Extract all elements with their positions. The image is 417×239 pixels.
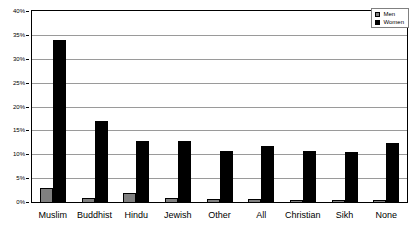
x-tick-label: Jewish bbox=[157, 204, 199, 226]
x-tick-label: Christian bbox=[282, 204, 324, 226]
chart-legend: MenWomen bbox=[371, 8, 409, 28]
bar-group bbox=[74, 11, 116, 202]
y-tick-label: 0% bbox=[16, 199, 25, 205]
y-tick-label: 40% bbox=[13, 8, 25, 14]
bar-men-none bbox=[373, 200, 386, 202]
bar-men-muslim bbox=[40, 188, 53, 202]
x-axis: MuslimBuddhistHinduJewishOtherAllChristi… bbox=[32, 204, 407, 226]
bar-group bbox=[199, 11, 241, 202]
y-tick-mark bbox=[26, 202, 29, 203]
bar-men-jewish bbox=[165, 198, 178, 202]
x-tick-label: Other bbox=[199, 204, 241, 226]
bar-men-other bbox=[207, 199, 220, 202]
bar-women-other bbox=[220, 151, 233, 202]
bar-women-hindu bbox=[136, 141, 149, 202]
legend-swatch-women bbox=[375, 20, 380, 25]
legend-item: Women bbox=[375, 19, 404, 25]
bar-chart: 0%5%10%15%20%25%30%35%40% MuslimBuddhist… bbox=[0, 0, 417, 239]
bar-men-sikh bbox=[332, 200, 345, 202]
bar-men-buddhist bbox=[82, 198, 95, 202]
y-tick-mark bbox=[26, 178, 29, 179]
y-tick-label: 35% bbox=[13, 32, 25, 38]
y-tick-label: 25% bbox=[13, 80, 25, 86]
x-tick-label: Sikh bbox=[324, 204, 366, 226]
y-tick-label: 20% bbox=[13, 104, 25, 110]
x-tick-label: All bbox=[240, 204, 282, 226]
bar-women-sikh bbox=[345, 152, 358, 202]
bar-women-none bbox=[386, 143, 399, 202]
bar-group bbox=[115, 11, 157, 202]
bar-group bbox=[365, 11, 407, 202]
y-axis: 0%5%10%15%20%25%30%35%40% bbox=[0, 10, 29, 203]
bar-women-buddhist bbox=[95, 121, 108, 202]
bar-group bbox=[32, 11, 74, 202]
legend-swatch-men bbox=[375, 12, 380, 17]
bar-group bbox=[157, 11, 199, 202]
bar-group bbox=[282, 11, 324, 202]
x-tick-label: Hindu bbox=[115, 204, 157, 226]
bar-women-muslim bbox=[53, 40, 66, 202]
y-tick-mark bbox=[26, 130, 29, 131]
bar-women-christian bbox=[303, 151, 316, 202]
legend-label: Men bbox=[383, 11, 395, 17]
y-tick-label: 5% bbox=[16, 175, 25, 181]
x-tick-label: Muslim bbox=[32, 204, 74, 226]
bar-women-all bbox=[261, 146, 274, 202]
legend-label: Women bbox=[383, 19, 404, 25]
y-tick-label: 10% bbox=[13, 151, 25, 157]
bars-layer bbox=[32, 11, 407, 202]
y-tick-mark bbox=[26, 35, 29, 36]
bar-men-hindu bbox=[123, 193, 136, 202]
y-tick-mark bbox=[26, 59, 29, 60]
bar-men-christian bbox=[290, 200, 303, 202]
y-tick-label: 30% bbox=[13, 56, 25, 62]
y-tick-label: 15% bbox=[13, 127, 25, 133]
y-tick-mark bbox=[26, 83, 29, 84]
y-tick-mark bbox=[26, 154, 29, 155]
x-tick-label: None bbox=[365, 204, 407, 226]
bar-men-all bbox=[248, 199, 261, 202]
y-tick-mark bbox=[26, 11, 29, 12]
bar-group bbox=[240, 11, 282, 202]
legend-item: Men bbox=[375, 11, 404, 17]
y-tick-mark bbox=[26, 107, 29, 108]
bar-women-jewish bbox=[178, 141, 191, 202]
bar-group bbox=[324, 11, 366, 202]
x-tick-label: Buddhist bbox=[74, 204, 116, 226]
